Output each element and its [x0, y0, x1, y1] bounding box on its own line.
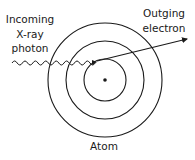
- nucleus: [103, 78, 107, 82]
- atom-label: Atom: [90, 140, 118, 152]
- photoelectric-effect-diagram: Incoming X-ray photon Outging electron A…: [0, 0, 195, 160]
- incoming-label-line1: Incoming: [6, 13, 54, 25]
- outgoing-electron-arrow: [97, 39, 187, 61]
- incoming-label-line2: X-ray: [16, 28, 43, 40]
- outgoing-label-line1: Outging: [143, 7, 185, 19]
- atom: [48, 23, 162, 137]
- incoming-photon-wave: [12, 61, 95, 65]
- outgoing-label-line2: electron: [143, 22, 186, 34]
- incoming-label-line3: photon: [12, 42, 49, 54]
